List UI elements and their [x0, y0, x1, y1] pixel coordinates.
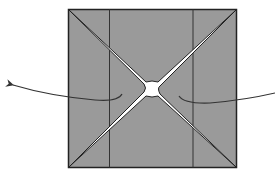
fold-diagram: [0, 0, 275, 177]
